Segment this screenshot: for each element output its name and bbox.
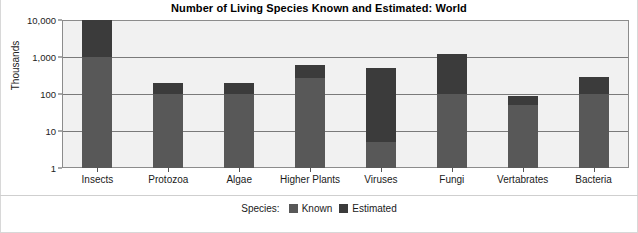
y-axis-tick-label: 100	[40, 89, 56, 100]
bar-segment-known	[224, 94, 254, 168]
bar-segment-known	[153, 94, 183, 168]
x-axis-tick-mark	[310, 168, 311, 172]
bar-segment-estimated	[437, 54, 467, 94]
x-axis-tick-label: Algae	[226, 174, 252, 185]
bar-group	[82, 20, 112, 168]
bar-segment-known	[295, 78, 325, 168]
bar-segment-estimated	[366, 68, 396, 142]
bar-segment-known	[437, 94, 467, 168]
legend-separator	[0, 195, 638, 196]
bars-layer	[62, 20, 629, 168]
bar-segment-estimated	[508, 96, 538, 105]
bar-group	[508, 20, 538, 168]
y-axis-tick-label: 10,000	[27, 15, 56, 26]
x-axis-tick-mark	[97, 168, 98, 172]
x-axis-tick-label: Viruses	[364, 174, 397, 185]
x-axis-tick-label: Insects	[82, 174, 114, 185]
legend-item-known: Known	[289, 203, 333, 214]
x-axis-tick-label: Protozoa	[148, 174, 188, 185]
legend-swatch-estimated-icon	[339, 204, 348, 213]
legend-item-estimated: Estimated	[339, 203, 396, 214]
legend-label-estimated: Estimated	[352, 203, 396, 214]
chart-title: Number of Living Species Known and Estim…	[0, 2, 638, 14]
y-axis-label: Thousands	[10, 6, 21, 126]
frame-border-bottom	[0, 232, 638, 233]
legend-title: Species:	[241, 203, 279, 214]
x-axis-tick-label: Fungi	[439, 174, 464, 185]
y-axis-tick-label: 1,000	[32, 52, 56, 63]
y-axis-tick-label: 1	[51, 163, 56, 174]
x-axis-tick-mark	[168, 168, 169, 172]
bar-segment-estimated	[153, 83, 183, 94]
x-axis-tick-label: Bacteria	[575, 174, 612, 185]
bar-segment-estimated	[82, 20, 112, 57]
chart-container: Number of Living Species Known and Estim…	[0, 0, 638, 233]
x-axis-tick-mark	[523, 168, 524, 172]
bar-segment-known	[579, 94, 609, 168]
bar-group	[153, 20, 183, 168]
x-axis-tick-mark	[381, 168, 382, 172]
chart-legend: Species: Known Estimated	[0, 203, 638, 214]
x-axis-tick-label: Vertabrates	[497, 174, 548, 185]
bar-segment-known	[366, 142, 396, 168]
x-axis-tick-mark	[452, 168, 453, 172]
bar-group	[437, 20, 467, 168]
bar-segment-estimated	[295, 65, 325, 78]
y-axis-tick-label: 10	[45, 126, 56, 137]
frame-border-left	[0, 0, 1, 233]
bar-group	[579, 20, 609, 168]
x-axis-tick-mark	[594, 168, 595, 172]
bar-group	[295, 20, 325, 168]
bar-group	[224, 20, 254, 168]
bar-segment-estimated	[224, 83, 254, 94]
x-axis-tick-labels: InsectsProtozoaAlgaeHigher PlantsViruses…	[62, 174, 629, 190]
legend-label-known: Known	[302, 203, 333, 214]
x-axis-tick-label: Higher Plants	[280, 174, 340, 185]
bar-group	[366, 20, 396, 168]
legend-swatch-known-icon	[289, 204, 298, 213]
x-axis-tick-mark	[239, 168, 240, 172]
bar-segment-known	[508, 105, 538, 168]
bar-segment-estimated	[579, 77, 609, 94]
bar-segment-known	[82, 57, 112, 168]
